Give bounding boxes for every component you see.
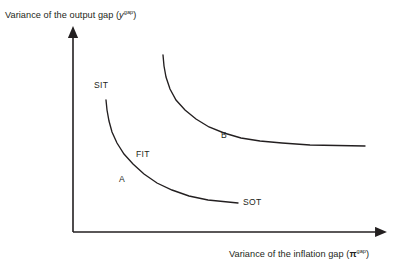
outer-frontier-curve [163,55,365,146]
x-axis-label-suffix: ) [366,249,369,259]
x-axis-label-text: Variance of the inflation gap ( [229,249,349,259]
x-axis-label: Variance of the inflation gap (πgap) [229,250,369,259]
inner-frontier-curve [106,100,238,203]
label-sit: SIT [94,81,108,90]
y-axis-label: Variance of the output gap (ygap) [5,11,136,20]
y-axis-label-suffix: ) [133,10,136,20]
frontier-curves-group [106,55,365,203]
label-point-a: A [119,175,125,184]
y-axis-label-text: Variance of the output gap ( [5,10,119,20]
label-point-b: B [221,131,227,140]
label-fit: FIT [136,150,150,159]
x-axis-label-superscript: gap [356,248,365,254]
taylor-curve-figure [0,0,398,267]
label-sot: SOT [243,198,262,207]
y-axis-label-superscript: gap [124,9,133,15]
